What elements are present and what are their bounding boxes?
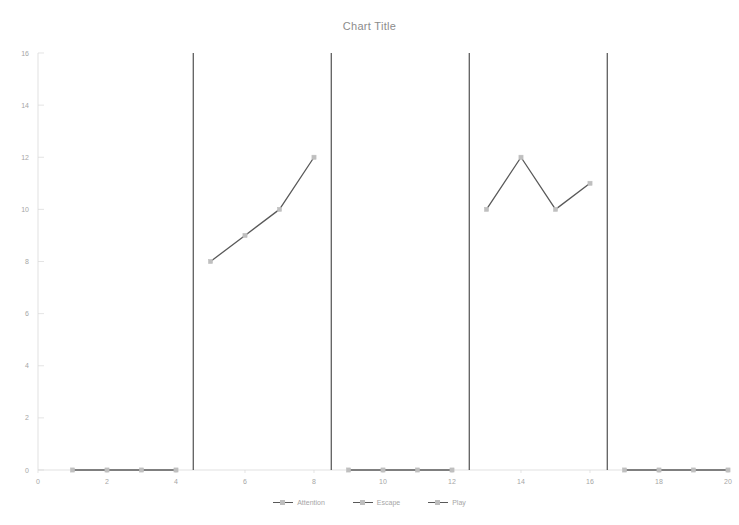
- axis-layer: [38, 53, 728, 470]
- svg-text:0: 0: [25, 467, 29, 474]
- svg-text:12: 12: [21, 154, 29, 161]
- svg-text:6: 6: [243, 478, 247, 485]
- legend-label: Play: [452, 499, 466, 506]
- gridlines-layer: [38, 53, 44, 470]
- series-1: [208, 155, 316, 263]
- chart-legend: Attention Escape Play: [0, 498, 739, 506]
- legend-item-attention[interactable]: Attention: [273, 498, 325, 506]
- data-series-layer: [70, 155, 730, 472]
- legend-line-marker-icon: [428, 498, 448, 506]
- legend-line-marker-icon: [273, 498, 293, 506]
- svg-text:10: 10: [21, 206, 29, 213]
- svg-text:0: 0: [36, 478, 40, 485]
- legend-label: Escape: [377, 499, 400, 506]
- svg-text:20: 20: [724, 478, 732, 485]
- svg-text:16: 16: [586, 478, 594, 485]
- svg-text:18: 18: [655, 478, 663, 485]
- phase-divider-lines: [193, 53, 607, 470]
- series-4: [622, 468, 730, 472]
- legend-item-play[interactable]: Play: [428, 498, 466, 506]
- chart-plot-area: 0246810121416 02468101214161820: [0, 0, 739, 525]
- svg-text:6: 6: [25, 310, 29, 317]
- svg-text:12: 12: [448, 478, 456, 485]
- y-axis-tick-labels: 0246810121416: [21, 50, 29, 474]
- series-3: [484, 155, 592, 211]
- svg-text:2: 2: [25, 414, 29, 421]
- svg-text:10: 10: [379, 478, 387, 485]
- svg-text:14: 14: [517, 478, 525, 485]
- svg-text:2: 2: [105, 478, 109, 485]
- svg-text:14: 14: [21, 102, 29, 109]
- series-0: [70, 468, 178, 472]
- svg-text:4: 4: [174, 478, 178, 485]
- svg-text:8: 8: [25, 258, 29, 265]
- legend-line-marker-icon: [353, 498, 373, 506]
- legend-item-escape[interactable]: Escape: [353, 498, 400, 506]
- svg-text:8: 8: [312, 478, 316, 485]
- legend-label: Attention: [297, 499, 325, 506]
- svg-text:16: 16: [21, 50, 29, 57]
- series-2: [346, 468, 454, 472]
- svg-text:4: 4: [25, 362, 29, 369]
- chart-container: Chart Title 0246810121416 02468101214161…: [0, 0, 739, 525]
